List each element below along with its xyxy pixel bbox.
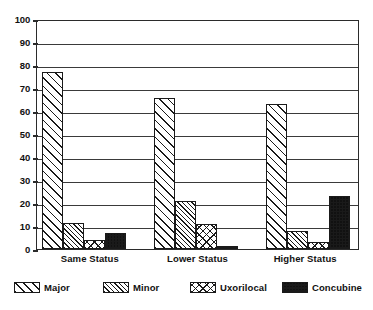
legend-swatch-minor — [103, 282, 129, 293]
bar-minor-higher-status[interactable] — [287, 231, 308, 249]
bar-uxorilocal-higher-status[interactable] — [308, 242, 329, 249]
y-axis-tick-60: 60 — [4, 107, 30, 116]
x-axis-label-lower-status: Lower Status — [144, 253, 252, 269]
bar-major-higher-status[interactable] — [266, 104, 287, 249]
legend-swatch-uxorilocal — [190, 282, 216, 293]
bar-major-lower-status[interactable] — [154, 98, 175, 249]
legend-label-uxorilocal: Uxorilocal — [220, 282, 267, 293]
legend-label-major: Major — [44, 282, 70, 293]
y-axis-tick-labels: 0102030405060708090100 — [0, 0, 30, 268]
bar-concubine-lower-status[interactable] — [217, 246, 238, 249]
bar-concubine-higher-status[interactable] — [329, 196, 350, 249]
x-axis-label-same-status: Same Status — [36, 253, 144, 269]
x-axis-category-labels: Same StatusLower StatusHigher Status — [36, 253, 359, 269]
bar-major-same-status[interactable] — [42, 72, 63, 249]
plot-area-wrapper: 0102030405060708090100 Same StatusLower … — [0, 0, 373, 268]
bar-group-lower-status — [134, 21, 246, 249]
x-axis-label-higher-status: Higher Status — [251, 253, 359, 269]
y-axis-tick-50: 50 — [4, 130, 30, 139]
bar-group-higher-status — [246, 21, 358, 249]
bar-group-same-status — [37, 21, 134, 249]
y-axis-tickmark — [33, 250, 38, 251]
bar-minor-same-status[interactable] — [63, 223, 84, 249]
bar-groups — [37, 21, 358, 249]
y-axis-tick-30: 30 — [4, 176, 30, 185]
bar-uxorilocal-lower-status[interactable] — [196, 224, 217, 249]
legend-item-concubine[interactable]: Concubine — [282, 282, 362, 293]
y-axis-tick-100: 100 — [4, 15, 30, 24]
legend-item-uxorilocal[interactable]: Uxorilocal — [190, 282, 267, 293]
y-axis-tick-70: 70 — [4, 84, 30, 93]
plot-area — [36, 20, 359, 250]
y-axis-tick-40: 40 — [4, 153, 30, 162]
legend-label-minor: Minor — [133, 282, 159, 293]
y-axis-tick-90: 90 — [4, 38, 30, 47]
y-axis-tick-10: 10 — [4, 222, 30, 231]
legend-label-concubine: Concubine — [312, 282, 362, 293]
bar-concubine-same-status[interactable] — [105, 233, 126, 249]
bar-chart: 0102030405060708090100 Same StatusLower … — [0, 0, 373, 310]
bar-minor-lower-status[interactable] — [175, 201, 196, 249]
y-axis-tick-80: 80 — [4, 61, 30, 70]
bar-uxorilocal-same-status[interactable] — [84, 240, 105, 249]
legend-swatch-major — [14, 282, 40, 293]
legend-item-minor[interactable]: Minor — [103, 282, 159, 293]
y-axis-tick-0: 0 — [4, 245, 30, 254]
chart-legend: MajorMinorUxorilocalConcubine — [0, 276, 373, 298]
y-axis-tick-20: 20 — [4, 199, 30, 208]
legend-swatch-concubine — [282, 282, 308, 293]
legend-item-major[interactable]: Major — [14, 282, 70, 293]
